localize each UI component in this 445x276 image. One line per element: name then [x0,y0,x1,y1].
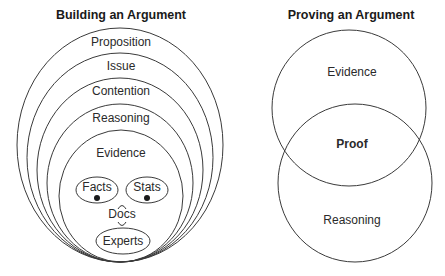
docs-bottom-arc-icon [118,222,126,226]
evidence-circle [272,30,426,186]
docs-label: Docs [108,207,135,221]
reasoning-circle [278,104,432,262]
layer-label-issue: Issue [107,59,136,73]
layer-label-contention: Contention [92,84,150,98]
right-title: Proving an Argument [288,8,415,22]
left-title: Building an Argument [56,8,187,22]
layer-label-evidence: Evidence [96,146,146,160]
diagram-canvas: Building an Argument Proposition Issue C… [0,0,445,276]
stats-dot-icon [144,195,150,201]
proof-label: Proof [336,137,368,151]
layer-label-reasoning: Reasoning [92,111,149,125]
layer-label-proposition: Proposition [91,35,151,49]
facts-dot-icon [94,195,100,201]
experts-label: Experts [103,234,144,248]
facts-label: Facts [82,180,111,194]
reasoning-label: Reasoning [323,213,380,227]
evidence-label: Evidence [327,65,377,79]
stats-label: Stats [133,180,160,194]
